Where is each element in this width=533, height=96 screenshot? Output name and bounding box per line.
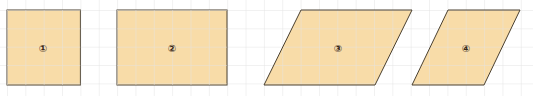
shapes-diagram: ① ② ③ ④ — [0, 0, 533, 96]
diagram: ① ② ③ ④ — [0, 0, 533, 96]
label-4: ④ — [462, 43, 470, 54]
label-1: ① — [39, 43, 47, 54]
label-2: ② — [168, 43, 176, 54]
label-3: ③ — [334, 43, 342, 54]
